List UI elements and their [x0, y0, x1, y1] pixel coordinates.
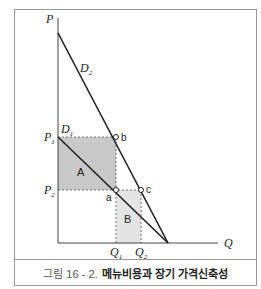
point-b: [114, 135, 119, 140]
point-c-label: c: [146, 184, 151, 195]
region-b-label: B: [124, 213, 131, 225]
point-b-label: b: [121, 132, 127, 143]
q-axis-label: Q: [224, 236, 233, 250]
caption-number: 그림 16 - 2.: [43, 265, 97, 281]
d1-label: D1: [60, 122, 73, 138]
point-a: [114, 188, 119, 193]
caption-title: 메뉴비용과 장기 가격신축성: [102, 265, 228, 281]
d2-label: D2: [79, 61, 93, 77]
figure-caption: 그림 16 - 2. 메뉴비용과 장기 가격신축성: [14, 259, 257, 286]
p-axis-label: P: [45, 12, 54, 26]
point-a-label: a: [106, 192, 112, 203]
demand-diagram: P Q D2 D1 P1 P2 Q1 Q2 b a c A B: [0, 0, 261, 289]
p2-label: P2: [43, 183, 55, 199]
region-a-label: A: [77, 166, 85, 178]
point-c: [139, 188, 144, 193]
p1-label: P1: [43, 130, 55, 146]
